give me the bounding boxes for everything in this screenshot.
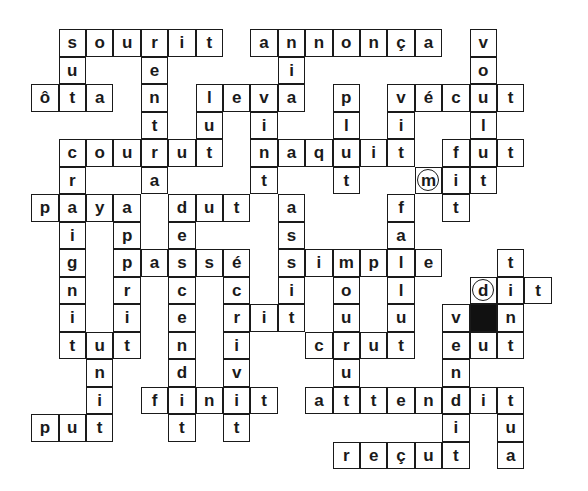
grid-cell[interactable]: i [442,167,469,195]
grid-cell[interactable]: a [415,29,442,57]
grid-cell[interactable]: i [278,277,305,305]
grid-cell[interactable]: n [497,304,524,332]
grid-cell[interactable]: i [168,29,195,57]
grid-cell[interactable]: t [497,387,524,415]
grid-cell[interactable]: e [387,387,414,415]
grid-cell[interactable]: e [223,84,250,112]
grid-cell[interactable]: l [470,112,497,140]
grid-cell[interactable]: v [387,84,414,112]
grid-cell[interactable]: n [305,29,332,57]
grid-cell[interactable]: d [168,194,195,222]
grid-cell[interactable]: i [470,387,497,415]
grid-cell[interactable]: i [113,304,140,332]
grid-cell[interactable]: t [497,332,524,360]
grid-cell[interactable]: t [223,414,250,442]
grid-cell[interactable]: ç [387,29,414,57]
grid-cell[interactable]: e [442,332,469,360]
grid-cell[interactable]: u [196,112,223,140]
grid-cell[interactable]: t [59,84,86,112]
grid-cell[interactable]: c [59,139,86,167]
grid-cell[interactable]: u [113,29,140,57]
grid-cell[interactable]: i [497,277,524,305]
grid-cell[interactable]: t [387,332,414,360]
grid-cell[interactable]: u [470,139,497,167]
grid-cell[interactable]: d [168,359,195,387]
grid-cell[interactable]: t [196,29,223,57]
grid-cell[interactable]: s [278,222,305,250]
grid-cell[interactable]: u [360,332,387,360]
grid-cell[interactable]: s [59,29,86,57]
grid-cell[interactable]: p [333,84,360,112]
grid-cell[interactable]: l [196,84,223,112]
grid-cell[interactable]: ô [31,84,58,112]
grid-cell[interactable]: l [333,112,360,140]
grid-cell[interactable]: o [333,29,360,57]
grid-cell[interactable]: t [278,304,305,332]
grid-cell[interactable]: t [333,387,360,415]
grid-cell[interactable]: m [333,249,360,277]
grid-cell[interactable]: é [223,249,250,277]
grid-cell[interactable]: t [497,249,524,277]
grid-cell[interactable]: l [387,249,414,277]
grid-cell[interactable]: a [141,167,168,195]
grid-cell[interactable]: u [59,57,86,85]
grid-cell[interactable]: i [59,222,86,250]
grid-cell[interactable]: u [196,194,223,222]
grid-cell[interactable]: u [415,442,442,470]
grid-cell[interactable]: p [31,194,58,222]
grid-cell[interactable]: u [113,139,140,167]
grid-cell[interactable]: u [333,304,360,332]
grid-cell[interactable]: a [141,249,168,277]
black-cell[interactable] [470,304,497,332]
grid-cell[interactable]: t [59,332,86,360]
grid-cell[interactable]: v [442,304,469,332]
grid-cell[interactable]: u [470,332,497,360]
grid-cell[interactable]: i [223,332,250,360]
grid-cell[interactable]: g [59,249,86,277]
grid-cell[interactable]: t [470,167,497,195]
grid-cell[interactable]: t [168,414,195,442]
grid-cell[interactable]: t [141,112,168,140]
grid-cell[interactable]: n [196,387,223,415]
grid-cell[interactable]: v [470,29,497,57]
grid-cell[interactable]: r [333,332,360,360]
grid-cell[interactable]: i [168,387,195,415]
grid-cell[interactable]: u [168,139,195,167]
grid-cell[interactable]: t [524,277,551,305]
grid-cell[interactable]: i [278,57,305,85]
grid-cell[interactable]: e [360,442,387,470]
grid-cell[interactable]: u [333,359,360,387]
grid-cell[interactable]: r [333,442,360,470]
grid-cell[interactable]: i [250,304,277,332]
grid-cell[interactable]: p [113,222,140,250]
grid-cell[interactable]: a [278,139,305,167]
grid-cell[interactable]: r [141,139,168,167]
grid-cell[interactable]: a [86,84,113,112]
grid-cell[interactable]: e [168,222,195,250]
grid-cell[interactable]: y [86,194,113,222]
grid-cell[interactable]: f [442,139,469,167]
grid-cell[interactable]: n [250,139,277,167]
grid-cell[interactable]: i [442,414,469,442]
grid-cell[interactable]: f [387,194,414,222]
grid-cell[interactable]: a [113,194,140,222]
grid-cell[interactable]: i [387,112,414,140]
grid-cell[interactable]: o [333,277,360,305]
grid-cell[interactable]: a [497,442,524,470]
grid-cell[interactable]: m [415,167,442,195]
grid-cell[interactable]: i [305,249,332,277]
grid-cell[interactable]: r [113,277,140,305]
grid-cell[interactable]: o [86,139,113,167]
grid-cell[interactable]: é [415,84,442,112]
grid-cell[interactable]: d [442,387,469,415]
grid-cell[interactable]: f [141,387,168,415]
grid-cell[interactable]: a [278,84,305,112]
grid-cell[interactable]: u [497,414,524,442]
grid-cell[interactable]: u [470,84,497,112]
grid-cell[interactable]: n [415,387,442,415]
grid-cell[interactable]: t [333,167,360,195]
grid-cell[interactable]: n [141,84,168,112]
grid-cell[interactable]: n [278,29,305,57]
grid-cell[interactable]: t [113,332,140,360]
grid-cell[interactable]: u [333,139,360,167]
